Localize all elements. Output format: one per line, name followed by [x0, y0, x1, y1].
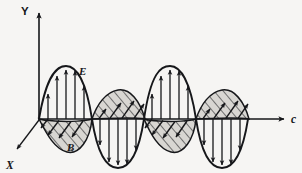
- field-label-e: E: [78, 65, 86, 77]
- em-wave-diagram: Y X c E B: [0, 0, 302, 173]
- axis-label-c: c: [291, 113, 296, 125]
- field-label-b: B: [66, 141, 74, 153]
- axis-label-x: X: [5, 159, 14, 171]
- axis-label-y: Y: [21, 5, 29, 17]
